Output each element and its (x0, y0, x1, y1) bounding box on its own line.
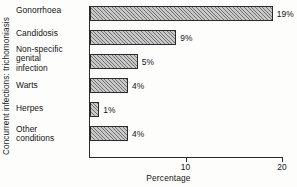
bar-gonorrhoea (90, 6, 273, 21)
bar-value-candidosis: 9% (180, 33, 192, 43)
bar-warts (90, 78, 129, 93)
bar-other-conditions (90, 126, 129, 141)
category-label-other-conditions: Other conditions (16, 125, 88, 144)
category-label-line: Warts (16, 81, 88, 90)
bar-value-herpes: 1% (103, 105, 115, 115)
category-label-line: Herpes (16, 104, 88, 113)
category-label-warts: Warts (16, 81, 88, 90)
category-label-column: Gonorrhoea Candidosis Non-specific genit… (16, 0, 88, 160)
y-axis-title-text: Concurrent infections: trichomoniasis (2, 17, 11, 155)
y-axis-title: Concurrent infections: trichomoniasis (0, 0, 14, 160)
category-label-line: Candidosis (16, 29, 88, 38)
category-label-gonorrhoea: Gonorrhoea (16, 6, 88, 15)
x-axis-title-text: Percentage (146, 173, 190, 183)
x-tick-mark-20 (282, 158, 283, 162)
category-label-line: conditions (16, 134, 88, 143)
category-label-line: infection (16, 64, 88, 73)
plot-area: 19% 9% 5% 4% 1% 4% 10 20 (89, 0, 289, 160)
bar-herpes (90, 102, 100, 117)
bar-value-non-specific-genital-infection: 5% (142, 57, 154, 67)
category-label-herpes: Herpes (16, 104, 88, 113)
x-tick-mark-10 (186, 158, 187, 162)
category-label-non-specific-genital-infection: Non-specific genital infection (16, 45, 88, 73)
x-tick-label-10: 10 (181, 162, 190, 172)
bar-value-warts: 4% (132, 81, 144, 91)
bar-chart-figure: Concurrent infections: trichomoniasis Go… (0, 0, 297, 187)
category-label-line: Gonorrhoea (16, 6, 88, 15)
bar-candidosis (90, 30, 177, 45)
category-label-candidosis: Candidosis (16, 29, 88, 38)
bar-non-specific-genital-infection (90, 54, 138, 69)
x-axis-title: Percentage (0, 173, 297, 183)
x-tick-label-20: 20 (277, 162, 286, 172)
bar-value-other-conditions: 4% (132, 129, 144, 139)
bar-value-gonorrhoea: 19% (277, 9, 294, 19)
